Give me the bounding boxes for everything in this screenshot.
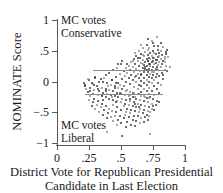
data-point — [102, 114, 104, 116]
data-point — [94, 76, 96, 78]
data-point — [134, 63, 136, 65]
data-point — [132, 60, 134, 62]
data-point — [105, 105, 107, 107]
data-point — [169, 66, 171, 68]
data-point — [153, 109, 155, 111]
annotation-line-2: Conservative — [61, 27, 122, 40]
data-point — [91, 105, 93, 107]
data-point — [116, 92, 118, 94]
data-point — [146, 84, 148, 86]
data-point — [147, 119, 149, 121]
data-point — [135, 98, 137, 100]
data-point — [114, 95, 116, 97]
data-point — [121, 135, 123, 137]
data-point — [130, 74, 132, 76]
data-point — [134, 103, 136, 105]
data-point — [117, 87, 119, 89]
data-point — [143, 121, 145, 123]
data-point — [149, 52, 151, 54]
data-point — [139, 57, 141, 59]
data-point — [116, 106, 118, 108]
data-point — [89, 87, 91, 89]
data-point — [158, 92, 160, 94]
data-point — [151, 108, 153, 110]
data-point — [148, 81, 150, 83]
data-point — [128, 65, 130, 67]
data-point — [92, 101, 94, 103]
data-point — [112, 99, 114, 101]
y-tick-label: −.5 — [22, 106, 49, 118]
data-point — [147, 101, 149, 103]
data-point — [137, 115, 139, 117]
data-point — [143, 109, 145, 111]
data-point — [139, 122, 141, 124]
x-tick-mark — [89, 145, 90, 150]
data-point — [130, 109, 132, 111]
data-point — [89, 90, 91, 92]
data-point — [142, 47, 144, 49]
data-point — [129, 98, 131, 100]
data-point — [126, 72, 128, 74]
data-point — [143, 82, 145, 84]
data-point — [144, 116, 146, 118]
data-point — [151, 82, 153, 84]
data-point — [125, 99, 127, 101]
data-point — [125, 67, 127, 69]
data-point — [152, 66, 154, 68]
data-point — [153, 63, 155, 65]
data-point — [164, 61, 166, 63]
data-point — [117, 96, 119, 98]
data-point — [107, 112, 109, 114]
data-point — [126, 108, 128, 110]
y-tick-label: 1 — [22, 14, 49, 26]
data-point — [119, 73, 121, 75]
data-point — [149, 133, 151, 135]
data-point — [121, 78, 123, 80]
data-point — [119, 115, 121, 117]
data-point — [132, 96, 134, 98]
data-point — [153, 85, 155, 87]
data-point — [114, 115, 116, 117]
data-point — [162, 78, 164, 80]
data-point — [160, 66, 162, 68]
data-point — [126, 121, 128, 123]
data-point — [96, 104, 98, 106]
data-point — [135, 120, 137, 122]
data-point — [138, 50, 140, 52]
data-point — [143, 71, 145, 73]
data-point — [156, 88, 158, 90]
data-point — [135, 81, 137, 83]
data-point — [128, 77, 130, 79]
data-point — [152, 74, 154, 76]
data-point — [155, 104, 157, 106]
data-point — [123, 105, 125, 107]
annotation-mc-votes-liberal: MC votes Liberal — [61, 119, 106, 144]
x-tick-mark — [153, 145, 154, 150]
data-point — [128, 104, 130, 106]
data-point — [165, 51, 167, 53]
data-point — [105, 74, 107, 76]
data-point — [101, 103, 103, 105]
data-point — [108, 89, 110, 91]
data-point — [107, 85, 109, 87]
data-point — [108, 108, 110, 110]
data-point — [133, 86, 135, 88]
data-point — [148, 115, 150, 117]
data-point — [110, 116, 112, 118]
data-point — [160, 84, 162, 86]
data-point — [93, 84, 95, 86]
data-point — [140, 104, 142, 106]
x-tick-label: .5 — [106, 152, 136, 164]
annotation-line-1: MC votes — [61, 119, 106, 132]
data-point — [123, 117, 125, 119]
data-point — [132, 119, 134, 121]
data-point — [135, 75, 137, 77]
y-tick-label: .5 — [22, 45, 49, 57]
data-point — [103, 77, 105, 79]
data-point — [121, 60, 123, 62]
data-point — [105, 96, 107, 98]
data-point — [120, 63, 122, 65]
x-axis-title-line-2: Candidate in Last Election — [0, 179, 223, 193]
data-point — [137, 103, 139, 105]
data-point — [98, 90, 100, 92]
